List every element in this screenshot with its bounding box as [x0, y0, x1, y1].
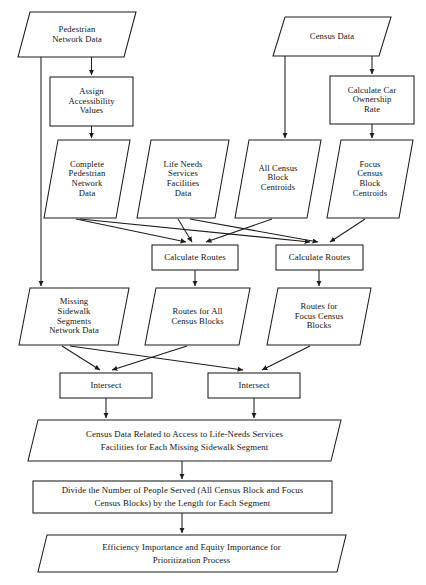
flowchart-canvas: Pedestrian Network Data Census Data Assi…: [0, 0, 426, 585]
shape-routes-for-all-census-blocks: [145, 288, 250, 345]
edge-routes-focus-to-intersect-right: [262, 346, 310, 370]
shape-divide-number-of-people-served: [33, 481, 332, 513]
shape-pedestrian-network-data: [18, 12, 136, 57]
shape-census-data: [273, 17, 391, 56]
shape-intersect-right: [208, 373, 300, 398]
shape-focus-census-block-centroids: [327, 140, 413, 218]
shape-routes-for-focus-census-blocks: [267, 288, 371, 345]
shape-missing-sidewalk-segments-network-data: [19, 288, 129, 345]
shape-all-census-block-centroids: [235, 140, 321, 218]
shape-efficiency-equity-importance: [38, 535, 346, 572]
edge-routes-all-to-intersect-left: [112, 346, 187, 370]
edge-all-centroids-to-routes-left: [206, 219, 272, 242]
shape-calculate-routes-left: [152, 245, 238, 270]
edge-complete-pnd-to-routes-left: [76, 219, 186, 242]
shape-intersect-left: [60, 373, 152, 398]
shape-calculate-routes-right: [276, 245, 363, 270]
edge-focus-centroids-to-routes-right: [330, 219, 365, 242]
edge-missing-to-intersect-right: [70, 346, 243, 370]
shape-complete-pedestrian-network-data: [44, 140, 130, 218]
shape-calculate-car-ownership-rate: [330, 76, 414, 124]
shape-life-needs-services-facilities-data: [137, 140, 229, 218]
shape-assign-accessibility-values: [50, 77, 133, 126]
edge-life-needs-to-routes-right: [190, 219, 318, 242]
edge-complete-pnd-to-routes-right: [80, 219, 310, 242]
shape-census-data-related-to-access: [28, 420, 341, 461]
flowchart-svg: [0, 0, 426, 585]
